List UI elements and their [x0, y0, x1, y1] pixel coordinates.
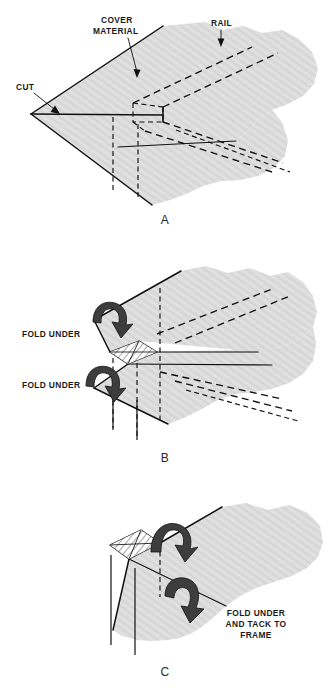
panel-a: COVER MATERIAL RAIL CUT A: [16, 15, 318, 227]
figure-root: COVER MATERIAL RAIL CUT A: [0, 0, 330, 688]
panel-a-label-cut: CUT: [16, 82, 35, 92]
panel-a-cut-line: [31, 114, 163, 115]
panel-c-cover: [113, 503, 323, 641]
panel-c-label-fold-under-line2: AND TACK TO: [226, 619, 287, 629]
panel-a-letter: A: [161, 213, 170, 227]
instruction-figure: COVER MATERIAL RAIL CUT A: [0, 0, 330, 688]
panel-b: FOLD UNDER FOLD UNDER B: [22, 266, 317, 465]
panel-c-letter: C: [160, 665, 169, 679]
panel-b-label-fold-under-top: FOLD UNDER: [22, 329, 80, 339]
panel-b-upper-flap: [94, 266, 317, 352]
panel-a-label-rail: RAIL: [211, 18, 232, 28]
panel-a-label-cover-material-line2: MATERIAL: [93, 26, 138, 36]
panel-a-label-cover-material-line1: COVER: [101, 15, 133, 25]
panel-c-label-fold-under-line1: FOLD UNDER: [227, 608, 285, 618]
panel-c: FOLD UNDER AND TACK TO FRAME C: [105, 503, 323, 679]
panel-b-label-fold-under-bottom: FOLD UNDER: [22, 380, 80, 390]
panel-c-label-fold-under-line3: FRAME: [240, 630, 272, 640]
panel-b-letter: B: [161, 451, 170, 465]
